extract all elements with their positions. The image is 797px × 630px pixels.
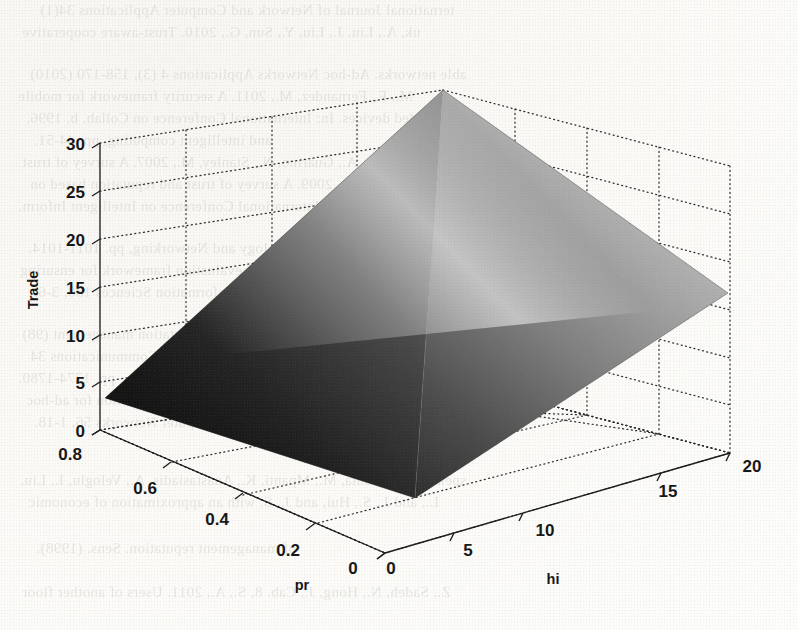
trade-surface-chart: 30 25 20 15 10 5 0 Trade 0.8 0.6 0.4 0.2… <box>0 0 797 630</box>
z-tick-25: 25 <box>66 183 85 202</box>
z-tick-10: 10 <box>66 327 85 346</box>
y-axis-label: hi <box>547 571 560 587</box>
z-tick-5: 5 <box>76 374 85 393</box>
y-tick-5: 5 <box>463 541 472 560</box>
surface-mesh <box>90 75 760 510</box>
z-tick-15: 15 <box>66 279 85 298</box>
x-tick-0point2: 0.2 <box>276 541 300 560</box>
y-tick-0: 0 <box>386 559 395 578</box>
x-tick-0point6: 0.6 <box>133 479 157 498</box>
z-axis-label: Trade <box>25 271 41 310</box>
x-tick-0point4: 0.4 <box>205 510 229 529</box>
y-tick-20: 20 <box>743 457 762 476</box>
y-tick-10: 10 <box>536 521 555 540</box>
scanned-page: ternational Journal of Network and Compu… <box>0 0 797 630</box>
z-tick-20: 20 <box>66 231 85 250</box>
y-tick-15: 15 <box>659 482 678 501</box>
x-axis-label: pr <box>295 577 310 593</box>
z-axis: 30 25 20 15 10 5 0 Trade <box>25 135 100 441</box>
x-tick-0: 0 <box>348 559 357 578</box>
z-tick-30: 30 <box>66 135 85 154</box>
z-tick-0: 0 <box>76 422 85 441</box>
x-tick-0point8: 0.8 <box>58 445 82 464</box>
